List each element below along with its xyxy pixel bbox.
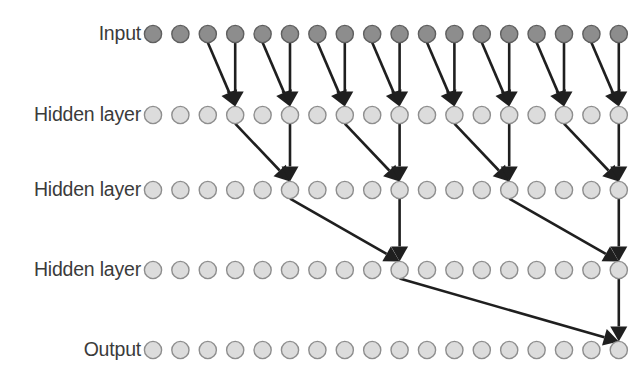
neuron-node-hidden2-1[interactable] (172, 181, 189, 198)
neuron-node-hidden1-8[interactable] (364, 106, 381, 123)
neuron-node-input-13[interactable] (501, 25, 518, 42)
neuron-node-input-6[interactable] (309, 25, 326, 42)
neuron-node-input-0[interactable] (144, 25, 161, 42)
neuron-node-hidden2-3[interactable] (227, 181, 244, 198)
neuron-node-hidden2-4[interactable] (254, 181, 271, 198)
neuron-node-hidden2-14[interactable] (528, 181, 545, 198)
neuron-node-output-14[interactable] (528, 341, 545, 358)
neuron-node-hidden3-9[interactable] (391, 261, 408, 278)
neuron-node-hidden2-7[interactable] (336, 181, 353, 198)
neuron-node-output-12[interactable] (473, 341, 490, 358)
neuron-node-hidden1-12[interactable] (473, 106, 490, 123)
neuron-node-hidden2-17[interactable] (610, 181, 627, 198)
neuron-node-hidden1-1[interactable] (172, 106, 189, 123)
neuron-node-hidden3-6[interactable] (309, 261, 326, 278)
connection-arrow (454, 124, 509, 182)
neuron-node-hidden3-14[interactable] (528, 261, 545, 278)
connection-arrow (564, 124, 619, 182)
neuron-node-output-5[interactable] (281, 341, 298, 358)
neuron-node-output-0[interactable] (144, 341, 161, 358)
neuron-node-output-8[interactable] (364, 341, 381, 358)
neuron-node-hidden1-17[interactable] (610, 106, 627, 123)
neuron-node-hidden1-9[interactable] (391, 106, 408, 123)
neuron-node-input-8[interactable] (364, 25, 381, 42)
neuron-node-hidden2-11[interactable] (446, 181, 463, 198)
neuron-node-output-11[interactable] (446, 341, 463, 358)
neuron-node-hidden1-10[interactable] (418, 106, 435, 123)
neuron-node-output-13[interactable] (501, 341, 518, 358)
neuron-node-hidden3-7[interactable] (336, 261, 353, 278)
neuron-node-hidden3-12[interactable] (473, 261, 490, 278)
neuron-node-output-1[interactable] (172, 341, 189, 358)
neuron-node-hidden2-2[interactable] (199, 181, 216, 198)
neuron-node-hidden3-5[interactable] (281, 261, 298, 278)
neuron-node-output-7[interactable] (336, 341, 353, 358)
neuron-node-input-10[interactable] (418, 25, 435, 42)
neuron-node-output-4[interactable] (254, 341, 271, 358)
neuron-node-input-2[interactable] (199, 25, 216, 42)
neuron-node-hidden2-13[interactable] (501, 181, 518, 198)
neuron-node-output-3[interactable] (227, 341, 244, 358)
neuron-node-hidden3-17[interactable] (610, 261, 627, 278)
neuron-node-hidden3-16[interactable] (583, 261, 600, 278)
connection-arrow (235, 124, 290, 182)
neuron-node-hidden3-1[interactable] (172, 261, 189, 278)
neuron-node-hidden1-15[interactable] (555, 106, 572, 123)
neuron-node-hidden2-0[interactable] (144, 181, 161, 198)
connection-arrow (509, 199, 619, 262)
neuron-node-hidden3-0[interactable] (144, 261, 161, 278)
neuron-node-hidden1-14[interactable] (528, 106, 545, 123)
neuron-node-hidden1-3[interactable] (227, 106, 244, 123)
neuron-node-hidden3-13[interactable] (501, 261, 518, 278)
neuron-node-input-1[interactable] (172, 25, 189, 42)
neuron-node-output-6[interactable] (309, 341, 326, 358)
neuron-node-output-10[interactable] (418, 341, 435, 358)
neuron-node-hidden2-12[interactable] (473, 181, 490, 198)
neuron-node-hidden1-7[interactable] (336, 106, 353, 123)
neuron-node-hidden3-8[interactable] (364, 261, 381, 278)
neuron-node-output-2[interactable] (199, 341, 216, 358)
neuron-node-hidden3-4[interactable] (254, 261, 271, 278)
neuron-node-hidden1-11[interactable] (446, 106, 463, 123)
neuron-node-hidden3-3[interactable] (227, 261, 244, 278)
neuron-node-hidden2-6[interactable] (309, 181, 326, 198)
neuron-node-hidden2-8[interactable] (364, 181, 381, 198)
neuron-node-input-12[interactable] (473, 25, 490, 42)
neuron-node-hidden3-10[interactable] (418, 261, 435, 278)
neural-network-diagram: InputHidden layerHidden layerHidden laye… (0, 0, 644, 387)
neuron-node-hidden1-5[interactable] (281, 106, 298, 123)
neuron-node-output-17[interactable] (610, 341, 627, 358)
neuron-node-output-15[interactable] (555, 341, 572, 358)
neuron-node-input-14[interactable] (528, 25, 545, 42)
layer-label-hidden1: Hidden layer (34, 103, 142, 125)
neuron-node-hidden3-15[interactable] (555, 261, 572, 278)
neuron-node-hidden1-0[interactable] (144, 106, 161, 123)
network-canvas: InputHidden layerHidden layerHidden laye… (0, 0, 644, 387)
neuron-node-hidden1-4[interactable] (254, 106, 271, 123)
neuron-node-output-9[interactable] (391, 341, 408, 358)
layer-label-hidden3: Hidden layer (34, 258, 142, 280)
connection-arrow (290, 199, 400, 262)
neuron-node-hidden2-5[interactable] (281, 181, 298, 198)
neuron-node-input-7[interactable] (336, 25, 353, 42)
neuron-node-input-16[interactable] (583, 25, 600, 42)
neuron-node-hidden3-11[interactable] (446, 261, 463, 278)
neuron-node-hidden1-6[interactable] (309, 106, 326, 123)
neuron-node-hidden2-9[interactable] (391, 181, 408, 198)
layer-labels-group: InputHidden layerHidden layerHidden laye… (34, 22, 142, 360)
neuron-node-input-11[interactable] (446, 25, 463, 42)
neuron-node-input-4[interactable] (254, 25, 271, 42)
neuron-node-output-16[interactable] (583, 341, 600, 358)
neuron-node-hidden1-16[interactable] (583, 106, 600, 123)
neuron-node-input-9[interactable] (391, 25, 408, 42)
neuron-node-input-15[interactable] (555, 25, 572, 42)
neuron-node-hidden3-2[interactable] (199, 261, 216, 278)
neuron-node-hidden2-16[interactable] (583, 181, 600, 198)
neuron-node-hidden1-13[interactable] (501, 106, 518, 123)
neuron-node-input-5[interactable] (281, 25, 298, 42)
neuron-node-hidden2-15[interactable] (555, 181, 572, 198)
neuron-node-input-17[interactable] (610, 25, 627, 42)
neuron-node-hidden2-10[interactable] (418, 181, 435, 198)
neuron-node-hidden1-2[interactable] (199, 106, 216, 123)
neuron-node-input-3[interactable] (227, 25, 244, 42)
